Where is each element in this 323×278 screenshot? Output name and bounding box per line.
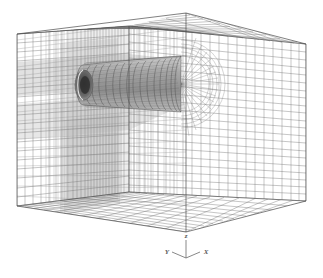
axis-x-line	[186, 252, 200, 258]
axis-y-line	[172, 252, 186, 258]
base-cavity-inner	[80, 76, 90, 94]
cylindrical-body	[74, 56, 181, 112]
base-radial-fan	[181, 38, 225, 136]
axis-y-label: Y	[165, 248, 170, 256]
mesh-canvas: z Y X	[0, 0, 323, 278]
axis-z-label: z	[184, 232, 188, 240]
mesh-figure: z Y X	[0, 0, 323, 278]
axis-x-label: X	[203, 248, 209, 256]
coordinate-axis-triad: z Y X	[165, 232, 209, 258]
top-face-depth-lines	[17, 13, 297, 42]
